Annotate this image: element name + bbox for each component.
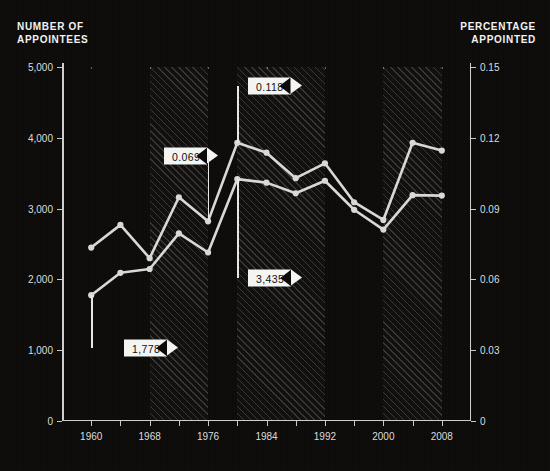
data-point (380, 217, 386, 223)
series-line (91, 143, 442, 258)
y2-axis-tick-label: 0 (480, 416, 486, 427)
x-axis-tick-label: 1968 (139, 431, 161, 442)
y2-axis-tick-label: 0.12 (480, 132, 499, 143)
y-axis-tick-label: 4,000 (28, 132, 53, 143)
y-axis-tick-label: 2,000 (28, 274, 53, 285)
plot-area: 01,0002,0003,0004,0005,000 00.030.060.09… (62, 67, 471, 421)
annotation-flag: 0.118 (248, 78, 291, 95)
x-axis-tick-mark (150, 421, 151, 426)
y2-axis-tick-mark (471, 138, 476, 139)
x-axis-tick-mark (120, 421, 121, 426)
x-axis-tick-mark (442, 421, 443, 426)
y2-axis-tick-label: 0.15 (480, 62, 499, 73)
x-axis-tick-label: 1992 (314, 431, 336, 442)
data-point (263, 150, 269, 156)
data-point (88, 244, 94, 250)
x-axis-tick-mark (179, 421, 180, 426)
data-point (147, 266, 153, 272)
data-point (147, 255, 153, 261)
flag-notch-icon (156, 340, 167, 357)
annotation-leader-line (237, 179, 238, 278)
y2-axis-tick-mark (471, 209, 476, 210)
data-point (176, 230, 182, 236)
data-point (117, 270, 123, 276)
data-point (176, 194, 182, 200)
x-axis-tick-mark (296, 421, 297, 426)
y2-axis-tick-label: 0.06 (480, 274, 499, 285)
data-point (322, 160, 328, 166)
data-point (351, 207, 357, 213)
annotation-leader-line (208, 156, 209, 221)
chart-root: NUMBER OF APPOINTEES PERCENTAGE APPOINTE… (0, 0, 550, 471)
data-point (439, 193, 445, 199)
y-axis-tick-label: 5,000 (28, 62, 53, 73)
annotation-leader-line (91, 295, 92, 348)
x-axis-tick-mark (413, 421, 414, 426)
y-axis-tick-label: 0 (47, 416, 53, 427)
x-axis-tick-label: 2000 (372, 431, 394, 442)
data-point (380, 227, 386, 233)
x-axis-tick-mark (354, 421, 355, 426)
data-point (351, 199, 357, 205)
annotation-leader-line (237, 86, 238, 143)
data-point (439, 147, 445, 153)
x-axis-tick-label: 1960 (80, 431, 102, 442)
x-axis-tick-mark (383, 421, 384, 426)
y-axis-tick-label: 3,000 (28, 203, 53, 214)
flag-notch-icon (280, 78, 291, 95)
x-axis-tick-mark (208, 421, 209, 426)
x-axis-tick-mark (267, 421, 268, 426)
left-axis-title-line1: NUMBER OF (17, 20, 88, 33)
y2-axis-tick-label: 0.09 (480, 203, 499, 214)
data-point (293, 175, 299, 181)
left-axis-title: NUMBER OF APPOINTEES (17, 20, 88, 46)
left-axis-title-line2: APPOINTEES (17, 33, 88, 46)
y2-axis-tick-label: 0.03 (480, 345, 499, 356)
data-point (205, 249, 211, 255)
annotation-flag: 1,778 (124, 340, 167, 357)
annotation-flag: 3,435 (248, 270, 291, 287)
data-point (409, 192, 415, 198)
flag-notch-icon (196, 148, 207, 165)
y2-axis-tick-mark (471, 279, 476, 280)
data-point (322, 178, 328, 184)
y-axis-tick-mark (57, 421, 62, 422)
series-layer (62, 67, 471, 421)
x-axis-tick-mark (91, 421, 92, 426)
data-point (117, 222, 123, 228)
x-axis-tick-mark (325, 421, 326, 426)
y2-axis-tick-mark (471, 421, 476, 422)
data-point (263, 180, 269, 186)
y2-axis-tick-mark (471, 350, 476, 351)
annotation-flag: 0.069 (164, 148, 207, 165)
right-axis-title: PERCENTAGE APPOINTED (460, 20, 536, 46)
x-axis-tick-mark (237, 421, 238, 426)
x-axis-tick-label: 2008 (431, 431, 453, 442)
x-axis-tick-label: 1976 (197, 431, 219, 442)
y-axis-tick-label: 1,000 (28, 345, 53, 356)
x-axis-tick-label: 1984 (255, 431, 277, 442)
right-axis-title-line2: APPOINTED (460, 33, 536, 46)
right-axis-title-line1: PERCENTAGE (460, 20, 536, 33)
y2-axis-tick-mark (471, 67, 476, 68)
data-point (409, 140, 415, 146)
flag-notch-icon (280, 270, 291, 287)
data-point (293, 190, 299, 196)
